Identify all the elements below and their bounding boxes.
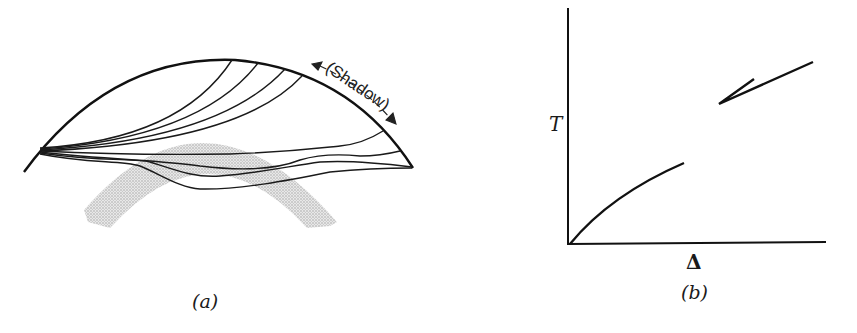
upper-rays [40,60,302,151]
ray-diagram-svg [0,0,430,333]
travel-time-branch-2 [719,62,813,104]
panel-b-travel-time-plot: T Δ (b) [430,0,857,333]
caption-b: (b) [681,281,708,303]
panel-a-ray-diagram: (Shadow) (a) [0,0,430,333]
low-velocity-zone-band [84,143,337,228]
travel-time-branch-1 [570,163,684,244]
caption-a: (a) [192,290,218,312]
y-axis-label: T [549,112,562,136]
x-axis-label: Δ [686,250,702,274]
x-axis [568,242,826,244]
travel-time-svg [430,0,857,333]
